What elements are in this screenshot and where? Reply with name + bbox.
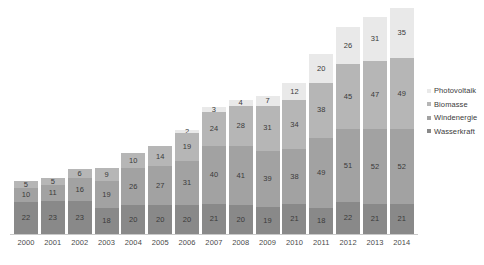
- bar-segment-wind[interactable]: 52: [363, 129, 387, 204]
- bar-value-label: 38: [317, 106, 326, 114]
- bar-segment-wind[interactable]: 49: [309, 138, 333, 209]
- bar-segment-pv[interactable]: 12: [282, 83, 306, 100]
- bar-segment-wind[interactable]: 40: [202, 146, 226, 204]
- bar-segment-bio[interactable]: 10: [121, 153, 145, 167]
- bar-segment-wind[interactable]: 10: [14, 188, 38, 202]
- bar-stack[interactable]: 4284120: [229, 100, 253, 234]
- bar-segment-bio[interactable]: 28: [229, 106, 253, 146]
- bar-segment-wasser[interactable]: 18: [309, 208, 333, 234]
- x-tick-label-2004: 2004: [121, 238, 145, 247]
- x-tick-label-2012: 2012: [336, 238, 360, 247]
- bar-segment-bio[interactable]: 34: [282, 100, 306, 149]
- bar-group-2010: 12343821: [282, 8, 306, 234]
- bar-group-2001: 51123: [41, 8, 65, 234]
- legend-item-pv[interactable]: Photovoltaik: [427, 86, 477, 95]
- bar-segment-pv[interactable]: 31: [363, 17, 387, 62]
- bar-value-label: 38: [290, 173, 299, 181]
- bar-segment-bio[interactable]: 5: [14, 181, 38, 188]
- bar-segment-wind[interactable]: 52: [390, 129, 414, 204]
- bar-segment-wind[interactable]: 38: [282, 149, 306, 204]
- bar-stack[interactable]: 31475221: [363, 17, 387, 234]
- bar-segment-wasser[interactable]: 23: [68, 201, 92, 234]
- bar-value-label: 27: [156, 182, 165, 190]
- bar-segment-wind[interactable]: 11: [41, 185, 65, 201]
- bar-segment-wasser[interactable]: 22: [336, 202, 360, 234]
- bar-value-label: 52: [398, 163, 407, 171]
- chart-legend: PhotovoltaikBiomasseWindenergieWasserkra…: [427, 86, 477, 136]
- bar-segment-wasser[interactable]: 20: [148, 205, 172, 234]
- legend-item-wind[interactable]: Windenergie: [427, 113, 477, 122]
- bar-stack[interactable]: 35495221: [390, 8, 414, 234]
- bar-segment-bio[interactable]: 24: [202, 112, 226, 147]
- bar-value-label: 20: [236, 216, 245, 224]
- bar-segment-wasser[interactable]: 21: [282, 204, 306, 234]
- bar-segment-wasser[interactable]: 20: [121, 205, 145, 234]
- bar-segment-wasser[interactable]: 21: [390, 204, 414, 234]
- bar-segment-bio[interactable]: 14: [148, 146, 172, 166]
- bar-value-label: 22: [22, 214, 31, 222]
- bar-segment-wind[interactable]: 19: [95, 181, 119, 208]
- bar-segment-bio[interactable]: 45: [336, 64, 360, 129]
- bar-segment-bio[interactable]: 9: [95, 168, 119, 181]
- bar-stack[interactable]: 20384918: [309, 54, 333, 234]
- bar-segment-bio[interactable]: 47: [363, 61, 387, 129]
- bar-segment-wind[interactable]: 39: [256, 151, 280, 207]
- bar-stack[interactable]: 102620: [121, 153, 145, 234]
- bar-segment-pv[interactable]: 7: [256, 96, 280, 106]
- bar-group-2008: 4284120: [229, 8, 253, 234]
- bar-segment-wind[interactable]: 27: [148, 166, 172, 205]
- bar-segment-pv[interactable]: 20: [309, 54, 333, 83]
- bar-segment-wind[interactable]: 51: [336, 129, 360, 202]
- bar-stack[interactable]: 3244021: [202, 107, 226, 234]
- bar-segment-wasser[interactable]: 20: [229, 205, 253, 234]
- bar-value-label: 35: [398, 29, 407, 37]
- bar-value-label: 21: [398, 215, 407, 223]
- bar-segment-wind[interactable]: 31: [175, 161, 199, 206]
- bar-segment-wasser[interactable]: 21: [363, 204, 387, 234]
- bar-segment-wasser[interactable]: 18: [95, 208, 119, 234]
- bar-group-2006: 2193120: [175, 8, 199, 234]
- bar-segment-wind[interactable]: 26: [121, 168, 145, 205]
- legend-item-bio[interactable]: Biomasse: [427, 100, 477, 109]
- bar-segment-wasser[interactable]: 21: [202, 204, 226, 234]
- bar-segment-wasser[interactable]: 19: [256, 207, 280, 234]
- bar-stack[interactable]: 51022: [14, 181, 38, 234]
- bar-group-2014: 35495221: [390, 8, 414, 234]
- bar-segment-bio[interactable]: 49: [390, 58, 414, 129]
- bar-value-label: 11: [49, 189, 57, 197]
- legend-label: Photovoltaik: [434, 86, 476, 95]
- bar-stack[interactable]: 61623: [68, 169, 92, 234]
- bar-value-label: 18: [102, 217, 111, 225]
- bar-stack[interactable]: 12343821: [282, 83, 306, 234]
- bar-group-2002: 61623: [68, 8, 92, 234]
- legend-label: Wasserkraft: [434, 127, 475, 136]
- bar-value-label: 31: [183, 179, 192, 187]
- bar-group-2012: 26455122: [336, 8, 360, 234]
- bar-value-label: 21: [210, 215, 219, 223]
- bar-segment-wind[interactable]: 16: [68, 178, 92, 201]
- legend-item-wasser[interactable]: Wasserkraft: [427, 127, 477, 136]
- bar-segment-bio[interactable]: 31: [256, 106, 280, 151]
- bar-segment-bio[interactable]: 5: [41, 178, 65, 185]
- bar-value-label: 6: [78, 170, 82, 178]
- bar-stack[interactable]: 91918: [95, 168, 119, 234]
- bar-segment-bio[interactable]: 19: [175, 133, 199, 160]
- bar-value-label: 19: [183, 143, 192, 151]
- bar-stack[interactable]: 26455122: [336, 27, 360, 234]
- bar-stack[interactable]: 51123: [41, 178, 65, 234]
- bar-segment-wind[interactable]: 41: [229, 146, 253, 205]
- bar-value-label: 52: [371, 163, 380, 171]
- bar-stack[interactable]: 7313919: [256, 96, 280, 234]
- bar-segment-pv[interactable]: 35: [390, 8, 414, 58]
- bar-segment-bio[interactable]: 38: [309, 83, 333, 138]
- bar-value-label: 21: [290, 215, 299, 223]
- bar-stack[interactable]: 2193120: [175, 130, 199, 234]
- bar-segment-pv[interactable]: 26: [336, 27, 360, 64]
- bar-segment-wasser[interactable]: 23: [41, 201, 65, 234]
- bar-segment-bio[interactable]: 6: [68, 169, 92, 178]
- bar-stack[interactable]: 142720: [148, 146, 172, 234]
- bar-value-label: 18: [317, 217, 326, 225]
- bar-segment-wasser[interactable]: 22: [14, 202, 38, 234]
- bar-segment-wasser[interactable]: 20: [175, 205, 199, 234]
- bar-value-label: 47: [371, 91, 380, 99]
